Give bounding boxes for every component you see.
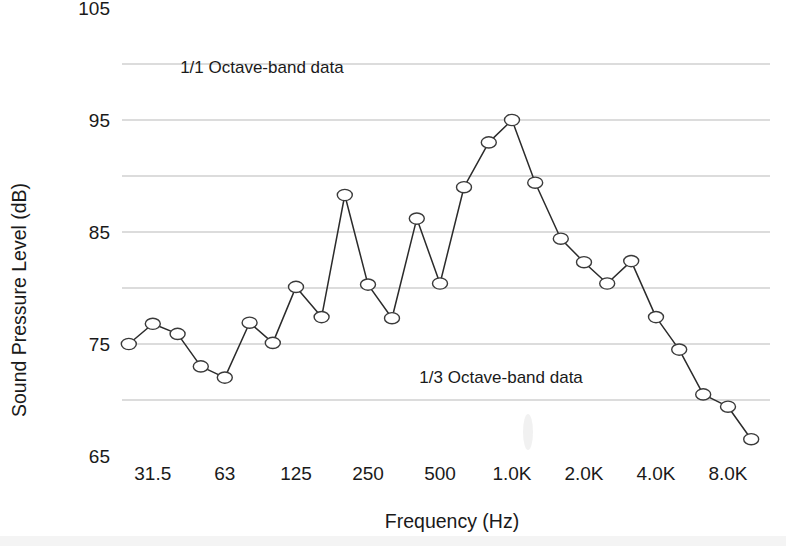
- x-tick-8.0K: 8.0K: [708, 463, 747, 484]
- data-point-marker: [289, 281, 304, 292]
- data-point-marker: [696, 389, 711, 400]
- x-tick-250: 250: [352, 463, 384, 484]
- data-point-marker: [721, 401, 736, 412]
- x-axis-tick-labels: 31.5631252505001.0K2.0K4.0K8.0K: [134, 463, 748, 484]
- x-tick-500: 500: [424, 463, 456, 484]
- data-point-marker: [600, 278, 615, 289]
- data-point-marker: [577, 257, 592, 268]
- x-tick-31.5: 31.5: [134, 463, 171, 484]
- data-point-marker: [457, 182, 472, 193]
- annotation-2: 1/3 Octave-band data: [419, 368, 583, 387]
- scan-bottom-edge: [0, 536, 786, 546]
- data-point-marker: [649, 312, 664, 323]
- x-tick-125: 125: [280, 463, 312, 484]
- data-point-marker: [121, 338, 136, 349]
- data-point-marker: [481, 137, 496, 148]
- y-tick-105: 105: [78, 0, 110, 19]
- data-point-marker: [145, 318, 160, 329]
- data-point-marker: [505, 114, 520, 125]
- y-axis-title: Sound Pressure Level (dB): [8, 183, 30, 417]
- y-tick-65: 65: [89, 446, 110, 467]
- data-point-marker: [744, 434, 759, 445]
- data-point-marker: [624, 256, 639, 267]
- data-point-marker: [193, 361, 208, 372]
- data-point-marker: [433, 278, 448, 289]
- data-point-marker: [528, 177, 543, 188]
- data-point-marker: [409, 213, 424, 224]
- scan-smudge: [523, 414, 533, 450]
- x-tick-1.0K: 1.0K: [492, 463, 531, 484]
- annotation-1: 1/1 Octave-band data: [180, 58, 344, 77]
- data-point-marker: [242, 317, 257, 328]
- data-point-marker: [217, 372, 232, 383]
- data-point-marker: [361, 279, 376, 290]
- data-point-marker: [553, 233, 568, 244]
- y-tick-85: 85: [89, 222, 110, 243]
- x-axis-title: Frequency (Hz): [385, 510, 519, 532]
- data-point-marker: [385, 313, 400, 324]
- data-point-marker: [337, 189, 352, 200]
- x-tick-63: 63: [214, 463, 235, 484]
- data-point-marker: [265, 337, 280, 348]
- data-point-marker: [170, 328, 185, 339]
- data-point-marker: [672, 344, 687, 355]
- x-tick-2.0K: 2.0K: [564, 463, 603, 484]
- data-point-marker: [314, 312, 329, 323]
- sound-pressure-level-line-chart: 10595857565 31.5631252505001.0K2.0K4.0K8…: [0, 0, 786, 546]
- chart-container: 10595857565 31.5631252505001.0K2.0K4.0K8…: [0, 0, 786, 546]
- y-tick-75: 75: [89, 334, 110, 355]
- y-tick-95: 95: [89, 110, 110, 131]
- x-tick-4.0K: 4.0K: [636, 463, 675, 484]
